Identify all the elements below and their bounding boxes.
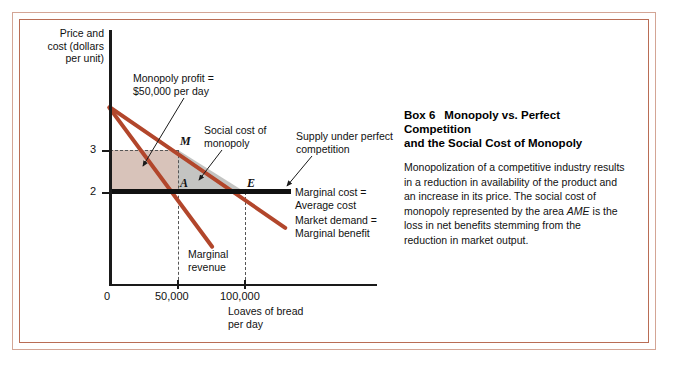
annotation-marginal-cost: Marginal cost = Average cost [295, 186, 400, 211]
caption-body-area-label: AME [567, 205, 590, 217]
point-label-e: E [247, 176, 255, 191]
economics-chart: 3 2 0 50,000 100,000 Price and cost (dol… [0, 0, 400, 371]
figure-root: 3 2 0 50,000 100,000 Price and cost (dol… [0, 0, 676, 371]
annotation-social-cost: Social cost of monopoly [204, 124, 284, 149]
x-tick-label-50000: 50,000 [155, 290, 189, 302]
annotation-supply-perfect: Supply under perfect competition [296, 130, 396, 155]
x-tick-100000 [244, 280, 246, 289]
y-tick-2 [102, 192, 110, 194]
social-cost-region [178, 150, 245, 192]
y-tick-label-2: 2 [90, 185, 96, 197]
point-label-m: M [180, 134, 191, 149]
x-tick-label-0: 0 [104, 290, 110, 302]
guide-line-quantity-50k [178, 150, 179, 285]
caption-box-number: Box 6 [404, 109, 435, 121]
y-tick-label-3: 3 [90, 143, 96, 155]
caption-body: Monopolization of a competitive industry… [404, 160, 626, 247]
annotation-market-demand: Market demand = Marginal benefit [295, 214, 400, 239]
annotation-marginal-revenue: Marginal revenue [188, 248, 258, 273]
y-axis [109, 30, 112, 286]
x-tick-label-100000: 100,000 [220, 290, 260, 302]
caption-box: Box 6Monopoly vs. Perfect Competition an… [404, 108, 626, 247]
y-axis-title: Price and cost (dollars per unit) [34, 27, 104, 65]
annotation-monopoly-profit: Monopoly profit = $50,000 per day [133, 72, 273, 97]
x-axis-title: Loaves of bread per day [228, 305, 348, 330]
x-tick-50000 [177, 280, 179, 289]
point-label-a: A [180, 176, 188, 191]
y-tick-3 [102, 150, 110, 152]
x-axis [109, 284, 377, 286]
marginal-cost-curve [110, 189, 291, 194]
caption-heading: Box 6Monopoly vs. Perfect Competition an… [404, 108, 626, 150]
